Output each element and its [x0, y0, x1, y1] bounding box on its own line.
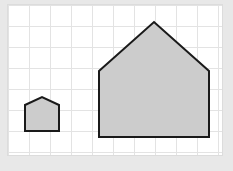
grid-horizontal-lines: [8, 6, 222, 153]
grid-background: [8, 5, 222, 155]
grid-panel: [8, 5, 222, 155]
figure-root: Two similar house-shaped polygons on a s…: [0, 0, 233, 171]
grid-vertical-lines: [9, 5, 219, 155]
